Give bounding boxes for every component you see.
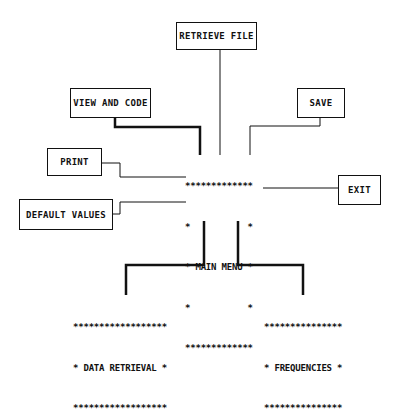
exit-label: EXIT — [348, 185, 371, 195]
data-retrieval-node[interactable]: ****************** * DATA RETRIEVAL * **… — [73, 294, 167, 413]
default-values-box[interactable]: DEFAULT VALUES — [19, 199, 113, 230]
print-label: PRINT — [60, 157, 89, 167]
save-label: SAVE — [310, 98, 333, 108]
default-values-label: DEFAULT VALUES — [26, 210, 106, 220]
frequencies-node[interactable]: *************** * FREQUENCIES * ********… — [264, 294, 342, 413]
data-retrieval-border-top: ****************** — [73, 321, 167, 335]
print-box[interactable]: PRINT — [47, 148, 102, 176]
frequencies-border-top: *************** — [264, 321, 342, 335]
data-retrieval-label: * DATA RETRIEVAL * — [73, 362, 167, 376]
frequencies-label: * FREQUENCIES * — [264, 362, 342, 376]
view-and-code-box[interactable]: VIEW AND CODE — [70, 88, 151, 118]
main-menu-border-bottom: ************* — [185, 342, 253, 356]
view-and-code-label: VIEW AND CODE — [73, 98, 147, 108]
frequencies-border-bottom: *************** — [264, 402, 342, 413]
data-retrieval-border-bottom: ****************** — [73, 402, 167, 413]
main-menu-border-top: ************* — [185, 180, 253, 194]
main-menu-label: * MAIN MENU * — [185, 261, 253, 275]
retrieve-file-label: RETRIEVE FILE — [179, 31, 253, 41]
retrieve-file-box[interactable]: RETRIEVE FILE — [176, 22, 257, 50]
save-box[interactable]: SAVE — [297, 88, 345, 118]
main-menu-row: * * — [185, 221, 253, 235]
exit-box[interactable]: EXIT — [338, 175, 381, 205]
main-menu-row: * * — [185, 302, 253, 316]
main-menu-node[interactable]: ************* * * * MAIN MENU * * * ****… — [185, 153, 253, 369]
